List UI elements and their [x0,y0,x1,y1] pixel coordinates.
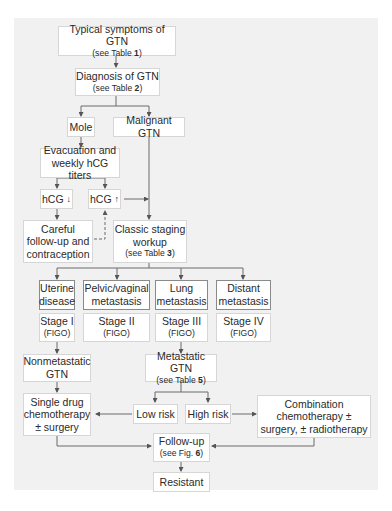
node-line: chemotherapy [24,408,91,421]
node-title: Follow-up [159,435,205,448]
arrow-up-icon: ↑ [115,194,120,205]
node-line: disease [39,295,75,308]
node-ref: (see Table 2) [93,83,143,95]
node-title: Low risk [136,408,175,421]
node-single-drug: Single drug chemotherapy ± surgery [23,393,91,436]
node-title: Stage IV [223,315,263,328]
node-distant-metastasis: Distant metastasis [216,280,271,310]
node-stage-3: Stage III (FIGO) [155,313,208,342]
node-follow-up: Follow-up (see Fig. 6) [153,433,210,462]
node-low-risk: Low risk [133,404,178,424]
node-line: Nonmetastatic [23,355,90,368]
node-line: Classic staging [115,223,186,236]
node-mole: Mole [67,117,95,137]
node-hcg-up: hCG ↑ [88,189,121,209]
node-diagnosis: Diagnosis of GTN (see Table 2) [75,68,160,96]
node-sub: (FIGO) [168,328,195,340]
node-line: Pelvic/vaginal [84,282,148,295]
node-ref: (see Table 1) [92,48,142,60]
node-sub: (FIGO) [44,328,71,340]
node-metastatic-gtn: Metastatic GTN (see Table 5) [145,354,217,382]
node-line: contraception [26,248,89,261]
node-title: Mole [70,121,93,134]
node-line: Lung [170,282,193,295]
node-title: hCG [90,193,112,206]
node-title: Metastatic GTN [146,350,216,375]
node-line: Careful [41,223,75,236]
node-title: Typical symptoms of GTN [59,23,175,48]
node-line: chemotherapy ± [276,410,351,423]
arrow-down-icon: ↓ [67,194,72,205]
node-classic-staging: Classic staging workup (see Table 3) [113,220,187,263]
node-line: metastasis [156,295,206,308]
node-careful-followup: Careful follow-up and contraception [23,220,93,263]
node-line: Distant [227,282,260,295]
node-line: Evacuation and [44,144,116,157]
node-line: workup [133,236,167,249]
node-title: hCG [42,193,64,206]
node-combination: Combination chemotherapy ± surgery, ± ra… [257,395,371,438]
node-stage-4: Stage IV (FIGO) [216,313,271,342]
node-line: Single drug [30,396,83,409]
node-ref: (see Table 3) [125,248,175,260]
node-title: Diagnosis of GTN [76,70,159,83]
node-line: surgery, ± radiotherapy [260,423,367,436]
node-line: ± surgery [35,421,79,434]
node-pelvic-vaginal: Pelvic/vaginal metastasis [83,280,150,310]
node-stage-1: Stage I (FIGO) [39,313,75,342]
node-line: GTN [46,368,68,381]
node-line: metastasis [91,295,141,308]
node-high-risk: High risk [185,404,231,424]
node-line: follow-up and [27,235,89,248]
node-title: Stage III [162,315,201,328]
node-sub: (FIGO) [103,328,130,340]
node-stage-2: Stage II (FIGO) [83,313,150,342]
node-title: Stage II [98,315,134,328]
node-ref: (see Table 5) [156,375,206,387]
node-uterine-disease: Uterine disease [39,280,75,310]
node-resistant: Resistant [153,472,210,492]
node-line: Combination [285,398,344,411]
node-title: High risk [188,408,229,421]
node-typical-symptoms: Typical symptoms of GTN (see Table 1) [58,26,176,56]
node-lung-metastasis: Lung metastasis [155,280,208,310]
node-title: Resistant [160,476,204,489]
node-line: Uterine [40,282,74,295]
node-malignant-gtn: Malignant GTN [113,117,185,137]
node-nonmetastatic-gtn: Nonmetastatic GTN [23,354,91,382]
node-ref: (see Fig. 6) [160,448,203,460]
node-sub: (FIGO) [230,328,257,340]
node-title: Malignant GTN [114,114,184,139]
node-evacuation: Evacuation and weekly hCG titers [40,148,120,178]
node-line: metastasis [218,295,268,308]
node-line: weekly hCG titers [41,157,119,182]
node-hcg-down: hCG ↓ [40,189,73,209]
node-title: Stage I [40,315,73,328]
